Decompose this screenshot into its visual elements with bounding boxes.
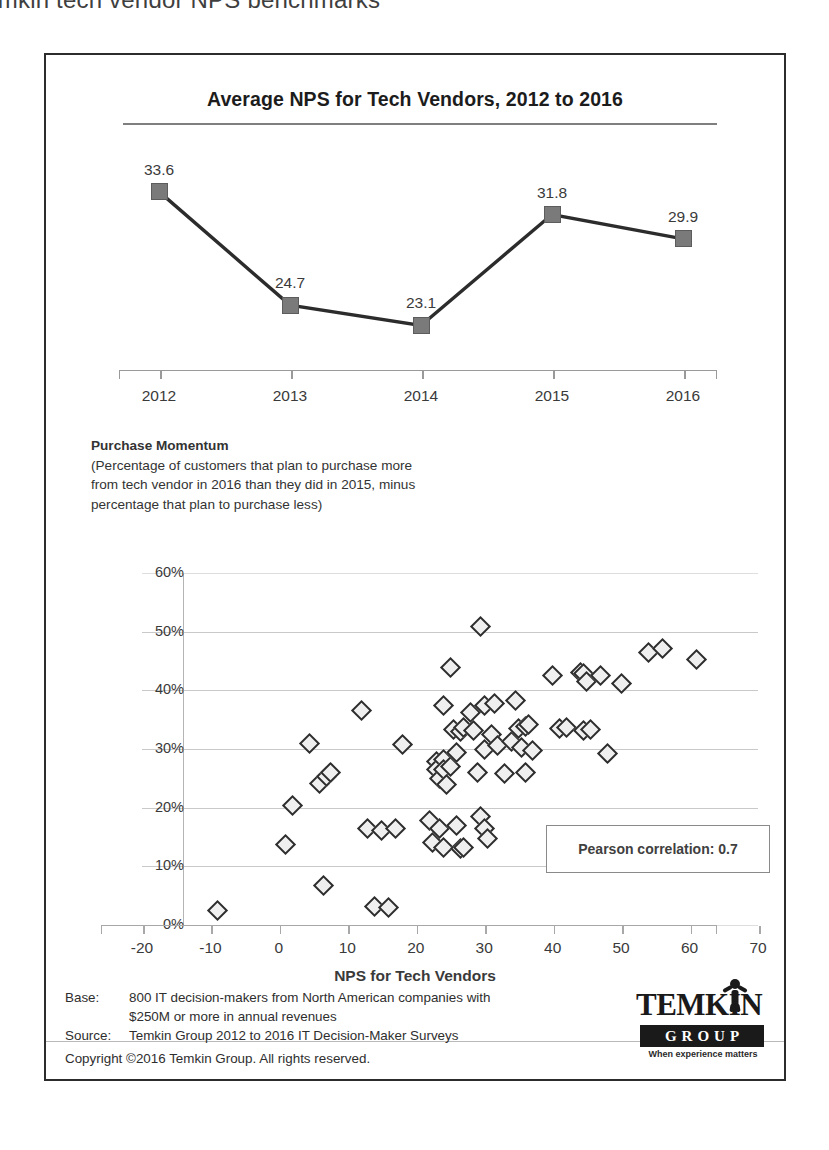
scatter-point: [391, 734, 412, 755]
scatter-point: [207, 900, 228, 921]
page-title: Temkin tech vendor NPS benchmarks: [0, 0, 829, 16]
scatter-x-label: 60: [660, 939, 720, 957]
pearson-correlation-callout: Pearson correlation: 0.7: [546, 825, 770, 873]
purchase-momentum-caption: Purchase Momentum (Percentage of custome…: [91, 436, 521, 514]
scatter-point: [494, 763, 515, 784]
scatter-x-tick: [348, 926, 350, 934]
footer-notes: Base: 800 IT decision-makers from North …: [65, 988, 625, 1045]
line-chart-x-tick: [291, 371, 293, 379]
momentum-line-3: percentage that plan to purchase less): [91, 497, 322, 512]
line-chart-x-tick: [422, 371, 424, 379]
page-title-text: Temkin tech vendor NPS benchmarks: [0, 0, 380, 14]
scatter-point: [313, 874, 334, 895]
line-chart-value-label: 23.1: [381, 294, 461, 312]
line-chart-marker: [675, 230, 692, 247]
scatter-y-label: 60%: [140, 564, 184, 580]
scatter-y-label: 30%: [140, 740, 184, 756]
momentum-title: Purchase Momentum: [91, 436, 521, 456]
line-chart: Average NPS for Tech Vendors, 2012 to 20…: [46, 55, 784, 435]
line-chart-x-axis: [119, 370, 717, 379]
title-divider: [123, 123, 717, 125]
scatter-point: [515, 762, 536, 783]
line-chart-marker: [413, 317, 430, 334]
base-value-continued: $250M or more in annual revenues: [129, 1007, 625, 1026]
line-chart-x-label: 2014: [376, 387, 466, 405]
line-chart-marker: [151, 183, 168, 200]
source-value: Temkin Group 2012 to 2016 IT Decision-Ma…: [129, 1026, 625, 1045]
line-chart-x-label: 2012: [114, 387, 204, 405]
scatter-x-label: 70: [728, 939, 788, 957]
scatter-x-tick: [143, 926, 145, 934]
source-label: Source:: [65, 1026, 129, 1045]
scatter-gridline: [142, 573, 758, 574]
scatter-point: [275, 833, 296, 854]
scatter-gridline: [142, 690, 758, 691]
scatter-x-tick: [211, 926, 213, 934]
person-icon: [722, 978, 748, 1012]
logo-wordmark: TEMKIN: [636, 989, 768, 1020]
scatter-x-tick-labels: -20-10010203040506070: [101, 939, 717, 961]
line-chart-x-tick: [684, 371, 686, 379]
scatter-point: [439, 657, 460, 678]
scatter-point: [446, 815, 467, 836]
scatter-point: [470, 616, 491, 637]
scatter-point: [299, 733, 320, 754]
scatter-x-tick: [280, 926, 282, 934]
line-chart-value-label: 33.6: [119, 161, 199, 179]
line-chart-x-label: 2013: [245, 387, 335, 405]
base-label: Base:: [65, 988, 129, 1007]
scatter-x-tick: [417, 926, 419, 934]
scatter-x-label: 20: [386, 939, 446, 957]
scatter-point: [282, 795, 303, 816]
scatter-x-tick: [691, 926, 693, 934]
scatter-y-label: 40%: [140, 681, 184, 697]
scatter-x-tick: [554, 926, 556, 934]
scatter-point: [467, 762, 488, 783]
scatter-x-tick: [759, 926, 761, 934]
line-chart-value-label: 29.9: [643, 208, 723, 226]
line-chart-x-tick: [553, 371, 555, 379]
line-chart-x-label: 2016: [638, 387, 728, 405]
scatter-point: [350, 700, 371, 721]
pearson-correlation-text: Pearson correlation: 0.7: [578, 841, 738, 857]
source-row: Source: Temkin Group 2012 to 2016 IT Dec…: [65, 1026, 625, 1045]
slide-frame: Average NPS for Tech Vendors, 2012 to 20…: [44, 53, 786, 1081]
scatter-point: [686, 649, 707, 670]
scatter-gridline: [142, 632, 758, 633]
logo-tagline: When experience matters: [640, 1049, 766, 1059]
scatter-point: [597, 743, 618, 764]
scatter-chart: 0%10%20%30%40%50%60% -20-100102030405060…: [46, 525, 784, 985]
scatter-point: [504, 690, 525, 711]
line-chart-x-tick: [160, 371, 162, 379]
scatter-point: [378, 897, 399, 918]
base-value: 800 IT decision-makers from North Americ…: [129, 988, 625, 1007]
base-row: Base: 800 IT decision-makers from North …: [65, 988, 625, 1007]
copyright-notice: Copyright ©2016 Temkin Group. All rights…: [65, 1051, 370, 1066]
scatter-point: [385, 818, 406, 839]
scatter-gridline: [142, 808, 758, 809]
scatter-x-tick: [622, 926, 624, 934]
scatter-point: [433, 694, 454, 715]
scatter-y-label: 50%: [140, 623, 184, 639]
line-chart-title: Average NPS for Tech Vendors, 2012 to 20…: [46, 88, 784, 111]
scatter-y-label: 10%: [140, 857, 184, 873]
scatter-x-axis: [101, 925, 717, 934]
momentum-line-2: from tech vendor in 2016 than they did i…: [91, 477, 415, 492]
temkin-group-logo: TEMKIN GROUP When experience matters: [636, 981, 768, 1069]
scatter-x-label: -10: [180, 939, 240, 957]
scatter-x-label: 0: [249, 939, 309, 957]
scatter-x-label: 40: [523, 939, 583, 957]
scatter-point: [542, 665, 563, 686]
scatter-x-label: 30: [454, 939, 514, 957]
scatter-x-tick: [485, 926, 487, 934]
line-chart-value-label: 24.7: [250, 274, 330, 292]
scatter-x-label: -20: [112, 939, 172, 957]
line-chart-marker: [282, 297, 299, 314]
scatter-x-label: 10: [317, 939, 377, 957]
scatter-x-label: 50: [591, 939, 651, 957]
line-chart-marker: [544, 206, 561, 223]
line-chart-x-label: 2015: [507, 387, 597, 405]
line-chart-value-label: 31.8: [512, 184, 592, 202]
scatter-y-label: 20%: [140, 799, 184, 815]
line-chart-x-tick-labels: 20122013201420152016: [119, 387, 717, 411]
